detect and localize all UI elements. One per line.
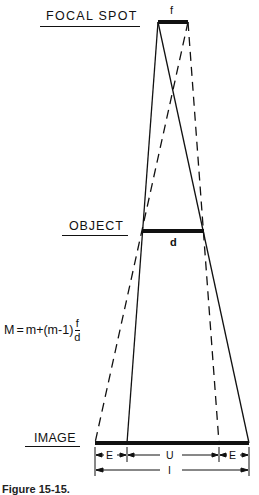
- figure-caption: Figure 15-15.: [2, 484, 70, 495]
- object-underline: [62, 235, 128, 236]
- image-label: IMAGE: [34, 432, 76, 445]
- edge-right-label: E: [227, 450, 238, 461]
- formula-lhs: M: [4, 324, 14, 337]
- object-label: OBJECT: [69, 220, 124, 233]
- umbra-label: U: [164, 450, 176, 461]
- magnification-formula: M = m+(m-1) f d: [4, 318, 80, 343]
- edge-left-label: E: [104, 450, 115, 461]
- image-underline: [25, 446, 80, 447]
- fraction-numerator: f: [75, 318, 80, 331]
- fraction-denominator: d: [74, 331, 80, 343]
- object-size-variable: d: [170, 237, 177, 248]
- formula-equals: =: [16, 324, 23, 337]
- focal-spot-label: FOCAL SPOT: [46, 10, 138, 23]
- focal-spot-underline: [40, 26, 140, 27]
- total-image-label: I: [166, 465, 173, 476]
- focal-size-variable: f: [170, 5, 173, 16]
- formula-rhs: m+(m-1): [26, 324, 74, 337]
- formula-fraction: f d: [74, 318, 80, 343]
